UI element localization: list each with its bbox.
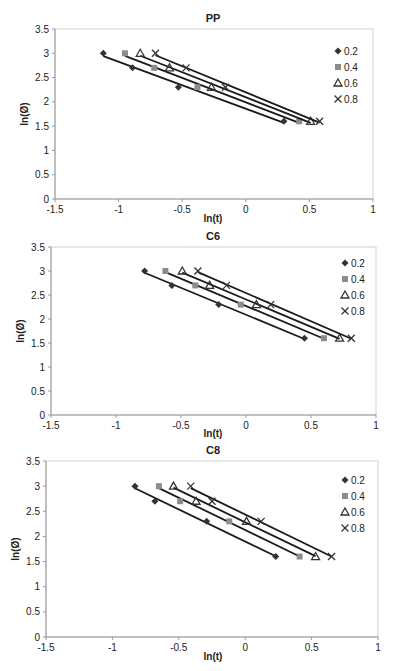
y-tick-label: 0.5: [35, 169, 49, 180]
series-0.4: [156, 483, 303, 559]
y-axis-label: ln(Ø): [10, 537, 21, 560]
legend-item-0.8: 0.8: [342, 306, 366, 317]
x-tick-label: -1.5: [46, 204, 64, 215]
legend-item-0.4: 0.4: [335, 62, 358, 73]
legend-x-marker: [342, 525, 349, 532]
legend-diamond-marker: [342, 477, 349, 484]
x-tick-label: 0.5: [305, 642, 319, 653]
series-0.2: [100, 50, 288, 125]
x-tick-label: 0.5: [302, 204, 316, 215]
y-tick-label: 2.5: [26, 506, 40, 517]
legend-label: 0.2: [351, 258, 365, 269]
trendline: [103, 56, 284, 123]
x-tick-label: -1: [114, 204, 123, 215]
data-point-square-marker: [162, 268, 168, 274]
trendline: [125, 56, 299, 123]
data-point-square-marker: [321, 335, 327, 341]
series-0.2: [141, 268, 308, 342]
y-tick-label: 2: [43, 96, 49, 107]
legend-label: 0.4: [344, 62, 358, 73]
trendline: [165, 272, 324, 339]
chart-c6: 00.511.522.533.5-1.5-1-0.500.51C6ln(t)ln…: [15, 230, 379, 439]
series-0.4: [122, 50, 302, 124]
y-axis-label: ln(Ø): [15, 319, 26, 342]
trendline: [191, 488, 332, 556]
data-point-diamond-marker: [100, 50, 107, 57]
data-point-triangle-marker: [136, 49, 144, 56]
data-point-x-marker: [194, 268, 201, 275]
data-point-square-marker: [238, 302, 244, 308]
y-tick-label: 0.5: [26, 606, 40, 617]
y-tick-label: 3: [43, 48, 49, 59]
y-tick-label: 1.5: [26, 556, 40, 567]
legend-item-0.6: 0.6: [334, 78, 358, 89]
legend-triangle-marker: [334, 79, 342, 86]
legend-x-marker: [335, 96, 342, 103]
plot-area: [51, 247, 376, 415]
y-tick-label: 0: [34, 632, 40, 643]
legend-label: 0.6: [351, 507, 365, 518]
legend-label: 0.2: [344, 46, 358, 57]
y-axis-label: ln(Ø): [19, 102, 30, 125]
legend-square-marker: [342, 493, 348, 499]
x-tick-label: -1.5: [42, 420, 60, 431]
legend-x-marker: [342, 308, 349, 315]
y-tick-label: 3.5: [26, 456, 40, 467]
y-tick-label: 2: [34, 531, 40, 542]
y-tick-label: 2.5: [31, 290, 45, 301]
legend-item-0.2: 0.2: [335, 46, 359, 57]
x-axis-label: ln(t): [204, 651, 223, 662]
plot-area: [46, 461, 378, 637]
x-tick-label: 1: [375, 642, 381, 653]
data-point-square-marker: [177, 498, 183, 504]
y-tick-label: 2.5: [35, 72, 49, 83]
legend-item-0.2: 0.2: [342, 258, 366, 269]
legend-label: 0.4: [351, 274, 365, 285]
y-tick-label: 2: [39, 314, 45, 325]
series-0.4: [162, 268, 327, 341]
x-tick-label: 0.5: [304, 420, 318, 431]
x-tick-label: 0: [242, 642, 248, 653]
data-point-x-marker: [328, 553, 335, 560]
x-tick-label: -1: [108, 642, 117, 653]
legend-square-marker: [342, 276, 348, 282]
data-point-square-marker: [192, 282, 198, 288]
data-point-square-marker: [156, 483, 162, 489]
legend-item-0.8: 0.8: [335, 94, 359, 105]
legend-label: 0.8: [351, 523, 365, 534]
x-tick-label: 0: [243, 420, 249, 431]
x-tick-label: 1: [373, 420, 379, 431]
y-tick-label: 3: [34, 481, 40, 492]
x-axis-label: ln(t): [204, 213, 223, 224]
data-point-square-marker: [122, 50, 128, 56]
chart-title: C8: [206, 444, 220, 456]
legend-label: 0.6: [351, 290, 365, 301]
x-tick-label: -1.5: [37, 642, 55, 653]
y-tick-label: 3.5: [31, 242, 45, 253]
legend-label: 0.6: [344, 78, 358, 89]
x-tick-label: -0.5: [170, 642, 188, 653]
data-point-square-marker: [194, 84, 200, 90]
legend-triangle-marker: [341, 291, 349, 298]
legend-square-marker: [335, 64, 341, 70]
figure-panel: 00.511.522.533.5-1.5-1-0.500.51PPln(t)ln…: [0, 0, 395, 671]
legend-item-0.4: 0.4: [342, 491, 365, 502]
x-axis-label: ln(t): [204, 428, 223, 439]
legend-label: 0.8: [351, 306, 365, 317]
series-0.6: [169, 482, 319, 559]
y-tick-label: 0: [43, 194, 49, 205]
y-tick-label: 3: [39, 266, 45, 277]
legend-label: 0.8: [344, 94, 358, 105]
y-tick-label: 1: [34, 581, 40, 592]
chart-title: C6: [206, 230, 220, 242]
legend-label: 0.2: [351, 475, 365, 486]
legend-item-0.4: 0.4: [342, 274, 365, 285]
legend-diamond-marker: [335, 48, 342, 55]
y-tick-label: 1.5: [31, 338, 45, 349]
legend-diamond-marker: [342, 260, 349, 267]
data-point-square-marker: [151, 65, 157, 71]
legend-label: 0.4: [351, 491, 365, 502]
legend-item-0.6: 0.6: [341, 507, 365, 518]
data-point-square-marker: [226, 518, 232, 524]
y-tick-label: 1: [39, 362, 45, 373]
